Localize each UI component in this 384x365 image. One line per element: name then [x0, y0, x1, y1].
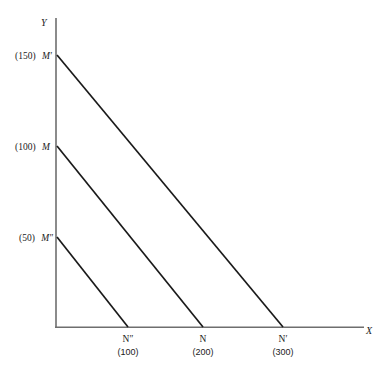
y-tick-50-value: (50)	[19, 233, 35, 244]
chart-canvas: Y X (150) M′ (100) M (50) M″ N″ (100) N …	[0, 0, 384, 365]
x-axis-label: X	[365, 325, 373, 336]
x-tick-n-prime-symbol: N′	[279, 334, 288, 344]
y-tick-150-group: (150) M′	[15, 51, 53, 62]
budget-line-m	[57, 146, 203, 327]
budget-line-m-double-prime	[57, 237, 128, 327]
y-tick-150-symbol: M′	[41, 51, 53, 61]
x-tick-n-prime-value: (300)	[272, 347, 293, 357]
x-tick-n-double-prime-value: (100)	[117, 347, 138, 357]
y-tick-100-symbol: M	[41, 142, 51, 152]
y-tick-50-group: (50) M″	[19, 233, 54, 244]
y-tick-150-value: (150)	[15, 51, 36, 62]
x-tick-n-symbol: N	[200, 334, 207, 344]
y-tick-50-symbol: M″	[40, 233, 54, 243]
y-axis-label: Y	[41, 17, 48, 28]
y-tick-100-group: (100) M	[15, 142, 51, 153]
x-tick-n-value: (200)	[192, 347, 213, 357]
x-tick-n-double-prime-symbol: N″	[123, 334, 134, 344]
y-tick-100-value: (100)	[15, 142, 36, 153]
budget-lines-figure: Y X (150) M′ (100) M (50) M″ N″ (100) N …	[0, 0, 384, 365]
